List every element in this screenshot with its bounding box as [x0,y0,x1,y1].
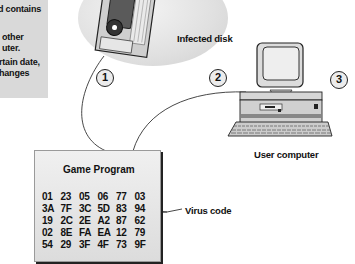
hex-cell: 79 [135,227,154,238]
hex-cell: 01 [42,191,61,202]
user-computer-label: User computer [254,149,318,160]
hex-cell: 3C [79,203,98,214]
computer-icon [228,43,332,136]
hex-row: 54293F4F739F [42,239,153,250]
hex-cell: 2E [79,215,98,226]
step-3-badge: 3 [330,71,348,89]
hex-cell: 62 [135,215,154,226]
hex-row: 3A7F3C5D8394 [42,203,153,214]
hex-cell: A2 [98,215,117,226]
hex-cell: 77 [116,191,135,202]
hex-cell: 23 [61,191,80,202]
hex-row: 192C2EA28762 [42,215,153,226]
hex-row: 012305067703 [42,191,153,202]
step-1-badge: 1 [96,69,114,87]
hex-cell: 12 [116,227,135,238]
floppy-disk-icon [95,0,155,57]
infected-disk-label: Infected disk [177,33,232,44]
hex-cell: 87 [116,215,135,226]
hex-cell: 7F [61,203,80,214]
hex-cell: 94 [135,203,154,214]
hex-cell: 8E [61,227,80,238]
step-2-badge: 2 [209,69,227,87]
hex-cell: FA [79,227,98,238]
hex-cell: 3F [79,239,98,250]
hex-cell: 29 [61,239,80,250]
hex-cell: 02 [42,227,61,238]
hex-cell: 4F [98,239,117,250]
game-program-box: Game Program 012305067703 3A7F3C5D8394 1… [34,150,161,262]
hex-row: 028EFAEA1279 [42,227,153,238]
hex-cell: 06 [98,191,117,202]
hex-cell: 73 [116,239,135,250]
hex-cell: 19 [42,215,61,226]
game-program-title: Game Program [63,164,135,175]
virus-code-label: Virus code [185,205,231,216]
hex-cell: 9F [135,239,154,250]
hex-cell: 3A [42,203,61,214]
hex-cell: 83 [116,203,135,214]
hex-cell: 2C [61,215,80,226]
hex-cell: 54 [42,239,61,250]
hex-cell: 03 [135,191,154,202]
hex-cell: EA [98,227,117,238]
hex-cell: 05 [79,191,98,202]
hex-cell: 5D [98,203,117,214]
